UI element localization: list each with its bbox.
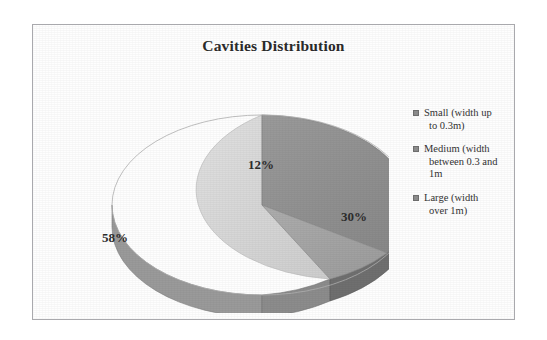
legend-group-medium: Medium (width between 0.3 and 1m bbox=[413, 143, 513, 181]
legend-item-medium[interactable]: Medium (width between 0.3 and 1m bbox=[413, 143, 513, 181]
pie-label-large: 58% bbox=[102, 230, 128, 246]
chart-frame: Cavities Distribution bbox=[32, 24, 515, 320]
legend-marker-medium-icon bbox=[413, 146, 419, 152]
pie-chart: 12% 30% 58% bbox=[49, 63, 389, 313]
legend-label-large-line2: over 1m) bbox=[424, 205, 513, 218]
pie-side-large-front bbox=[262, 279, 330, 313]
pie-label-small: 12% bbox=[248, 157, 274, 173]
legend-group-large: Large (width over 1m) bbox=[413, 192, 513, 217]
pie-label-medium: 30% bbox=[341, 209, 367, 225]
legend-label-medium-line3: 1m bbox=[424, 168, 513, 181]
legend-item-large[interactable]: Large (width over 1m) bbox=[413, 192, 513, 217]
legend-marker-large-icon bbox=[413, 195, 419, 201]
chart-legend: Small (width up to 0.3m) Medium (width b… bbox=[413, 107, 513, 228]
legend-group-small: Small (width up to 0.3m) bbox=[413, 107, 513, 132]
legend-marker-small-icon bbox=[413, 110, 419, 116]
chart-title: Cavities Distribution bbox=[33, 37, 514, 55]
pie-chart-svg bbox=[49, 63, 389, 313]
legend-label-medium-line2: between 0.3 and bbox=[424, 156, 513, 169]
legend-label-small-line2: to 0.3m) bbox=[424, 120, 513, 133]
legend-item-small[interactable]: Small (width up to 0.3m) bbox=[413, 107, 513, 132]
legend-label-small-line1: Small (width up bbox=[424, 107, 513, 120]
legend-label-large-line1: Large (width bbox=[424, 192, 513, 205]
legend-label-medium-line1: Medium (width bbox=[424, 143, 513, 156]
